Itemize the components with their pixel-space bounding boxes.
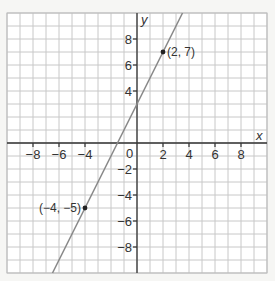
- data-point-marker: [161, 50, 166, 55]
- y-tick-label: −4: [117, 188, 132, 203]
- x-tick-label: −6: [52, 147, 67, 162]
- y-tick-label: −2: [117, 162, 132, 177]
- x-tick-label: −8: [26, 147, 41, 162]
- x-axis-label: x: [255, 128, 263, 143]
- x-tick-label: 2: [159, 147, 166, 162]
- x-tick-label: 6: [211, 147, 218, 162]
- origin-label: 0: [126, 146, 133, 161]
- y-tick-label: 6: [125, 58, 132, 73]
- data-point-label: (−4, −5): [39, 201, 81, 215]
- y-tick-label: 4: [125, 84, 132, 99]
- x-tick-label: 4: [185, 147, 192, 162]
- y-tick-label: −8: [117, 240, 132, 255]
- data-point-marker: [83, 206, 88, 211]
- x-tick-label: 8: [237, 147, 244, 162]
- data-point-label: (2, 7): [167, 45, 195, 59]
- y-tick-label: −6: [117, 214, 132, 229]
- x-tick-label: −4: [78, 147, 93, 162]
- y-tick-label: 8: [125, 32, 132, 47]
- coordinate-graph: −8−6−42468864−2−4−6−8 (2, 7)(−4, −5) x y…: [0, 0, 275, 281]
